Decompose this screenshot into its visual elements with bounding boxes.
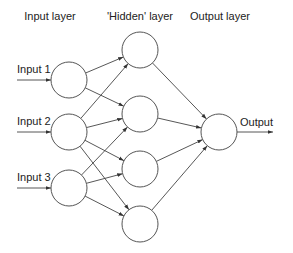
input-label-1: Input 1 (17, 63, 51, 75)
connection-arrow-i3-h3 (86, 174, 122, 184)
layer-label-output: Output layer (190, 10, 250, 22)
neuron-hidden-h4 (122, 206, 158, 242)
neural-network-diagram: Input layer'Hidden' layerOutput layer In… (0, 0, 293, 253)
connection-arrow-i3-h4 (85, 196, 124, 216)
neuron-hidden-h2 (122, 96, 158, 132)
neuron-input-i1 (51, 62, 87, 98)
neuron-hidden-h1 (122, 32, 158, 68)
neuron-input-i2 (51, 114, 87, 150)
connection-arrow-i2-h2 (86, 118, 122, 127)
layer-labels: Input layer'Hidden' layerOutput layer (24, 10, 250, 22)
neuron-output-o1 (201, 114, 237, 150)
connections (80, 57, 207, 216)
connection-arrow-i1-h1 (86, 57, 124, 73)
neuron-hidden-h3 (122, 151, 158, 187)
output-label: Output (240, 116, 273, 128)
neuron-input-i3 (51, 170, 87, 206)
connection-arrow-h1-o1 (153, 63, 207, 119)
connection-arrow-i2-h4 (80, 146, 129, 210)
input-label-2: Input 2 (17, 115, 51, 127)
connection-arrow-i3-h2 (82, 127, 128, 175)
connection-arrow-h3-o1 (156, 140, 202, 162)
layer-label-input: Input layer (24, 10, 76, 22)
connection-arrow-h4-o1 (152, 146, 208, 211)
neurons (51, 32, 237, 242)
connection-arrow-h2-o1 (158, 118, 202, 128)
input-label-3: Input 3 (17, 171, 51, 183)
layer-label-hidden: 'Hidden' layer (107, 10, 173, 22)
